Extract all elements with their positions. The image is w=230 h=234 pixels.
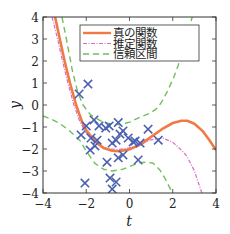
data-point-x-marker bbox=[144, 125, 152, 133]
data-point-x-marker bbox=[103, 158, 111, 166]
data-point-x-marker bbox=[84, 80, 92, 88]
data-point-x-marker bbox=[81, 179, 89, 187]
data-point-x-marker bbox=[114, 118, 122, 126]
y-tick-label: 4 bbox=[31, 11, 39, 25]
y-tick-label: −3 bbox=[21, 165, 39, 179]
y-tick-label: 1 bbox=[31, 77, 39, 91]
x-tick-label: −2 bbox=[77, 197, 95, 211]
x-tick-label: 4 bbox=[212, 197, 220, 211]
data-point-x-marker bbox=[102, 124, 110, 132]
data-point-x-marker bbox=[95, 122, 103, 130]
y-tick-label: 0 bbox=[31, 99, 39, 113]
legend-label-confidence: 信頼区間 bbox=[113, 47, 157, 61]
x-axis-label: t bbox=[126, 213, 132, 229]
data-point-x-marker bbox=[119, 127, 127, 135]
y-tick-label: 3 bbox=[31, 33, 39, 47]
y-axis-label: y bbox=[7, 100, 23, 110]
y-tick-label: −2 bbox=[21, 143, 39, 157]
y-tick-label: −1 bbox=[21, 121, 39, 135]
legend: 真の関数 推定関数 信頼区間 bbox=[80, 25, 199, 61]
x-tick-label: 2 bbox=[169, 197, 177, 211]
y-tick-label: 2 bbox=[31, 55, 39, 69]
chart: −4−2024−4−3−2−101234 真の関数 推定関数 信頼区間 t y bbox=[0, 0, 230, 234]
data-point-x-marker bbox=[77, 131, 85, 139]
data-point-x-marker bbox=[134, 156, 142, 164]
data-point-x-marker bbox=[108, 139, 116, 147]
x-tick-label: 0 bbox=[126, 197, 134, 211]
data-point-x-marker bbox=[154, 136, 162, 144]
y-tick-label: −4 bbox=[21, 187, 39, 201]
